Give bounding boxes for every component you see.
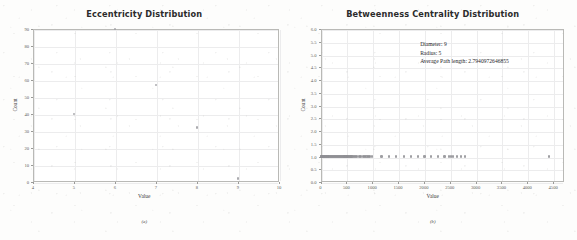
x-tick-mark (501, 182, 502, 184)
y-tick-mark (31, 131, 33, 132)
gridline-horizontal (322, 94, 563, 95)
x-tick-label: 6 (114, 185, 116, 190)
x-tick-label: 0 (319, 185, 321, 190)
y-tick-mark (319, 67, 321, 68)
x-tick-label: 2500 (445, 185, 454, 190)
data-point (417, 155, 419, 157)
y-axis-label-b: Count (300, 93, 306, 117)
x-tick-label: 4 (32, 185, 34, 190)
gridline-horizontal (34, 64, 278, 65)
data-point (548, 155, 550, 157)
y-tick-mark (319, 106, 321, 107)
plot-area-a: 010203040506070809045678910 Count Value (0, 0, 289, 240)
annotation-line: Diameter: 9 (420, 40, 509, 49)
y-tick-mark (319, 29, 321, 30)
y-tick-label: 0.0 (299, 180, 317, 185)
x-tick-mark (115, 182, 116, 184)
x-tick-mark (74, 182, 75, 184)
gridline-horizontal (322, 145, 563, 146)
x-axis-label-b: Value (289, 193, 577, 199)
y-tick-label: 1.0 (299, 154, 317, 159)
gridline-vertical (34, 30, 35, 181)
data-point (437, 155, 439, 157)
figure-row: Eccentricity Distribution 01020304050607… (0, 0, 577, 240)
y-tick-mark (319, 131, 321, 132)
y-tick-mark (31, 80, 33, 81)
subcaption-a: (a) (0, 219, 289, 224)
x-tick-mark (321, 182, 322, 184)
gridline-vertical (116, 30, 117, 181)
x-tick-mark (238, 182, 239, 184)
y-tick-label: 70 (11, 61, 29, 66)
y-tick-label: 6.0 (299, 27, 317, 32)
x-tick-label: 10 (277, 185, 282, 190)
y-tick-label: 5.5 (299, 39, 317, 44)
x-tick-label: 1000 (368, 185, 377, 190)
y-tick-mark (319, 55, 321, 56)
y-tick-mark (319, 93, 321, 94)
x-tick-label: 2000 (419, 185, 428, 190)
gridline-vertical (157, 30, 158, 181)
x-tick-mark (450, 182, 451, 184)
gridline-horizontal (34, 81, 278, 82)
chart-panel-eccentricity: Eccentricity Distribution 01020304050607… (0, 0, 289, 240)
x-tick-label: 7 (155, 185, 157, 190)
axes-box-a (33, 29, 279, 182)
y-axis-label-a: Count (12, 93, 18, 117)
y-tick-mark (31, 114, 33, 115)
gridline-horizontal (34, 132, 278, 133)
data-point (380, 155, 382, 157)
gridline-vertical (280, 30, 281, 181)
x-tick-mark (197, 182, 198, 184)
x-tick-mark (527, 182, 528, 184)
gridline-horizontal (34, 47, 278, 48)
y-tick-label: 30 (11, 129, 29, 134)
y-tick-label: 4.5 (299, 65, 317, 70)
x-tick-mark (279, 182, 280, 184)
y-tick-label: 2.0 (299, 129, 317, 134)
gridline-horizontal (322, 107, 563, 108)
x-tick-label: 9 (237, 185, 239, 190)
y-tick-label: 4.0 (299, 78, 317, 83)
plot-area-b: 0.00.51.01.52.02.53.03.54.04.55.05.56.00… (289, 0, 577, 240)
y-tick-mark (319, 118, 321, 119)
data-point (371, 155, 373, 157)
gridline-horizontal (322, 68, 563, 69)
gridline-horizontal (322, 119, 563, 120)
y-tick-mark (319, 144, 321, 145)
gridline-horizontal (322, 132, 563, 133)
x-tick-label: 1500 (393, 185, 402, 190)
y-tick-mark (319, 169, 321, 170)
x-tick-mark (33, 182, 34, 184)
gridline-horizontal (34, 30, 278, 31)
data-point (423, 155, 425, 157)
data-point (430, 155, 432, 157)
x-tick-mark (424, 182, 425, 184)
y-tick-mark (31, 165, 33, 166)
data-point (443, 155, 445, 157)
y-tick-mark (319, 42, 321, 43)
data-point (388, 155, 390, 157)
gridline-horizontal (34, 149, 278, 150)
annotation-line: Radius: 5 (420, 49, 509, 58)
x-tick-mark (346, 182, 347, 184)
x-tick-label: 8 (196, 185, 198, 190)
gridline-horizontal (322, 170, 563, 171)
y-tick-label: 80 (11, 44, 29, 49)
data-point (410, 155, 412, 157)
x-tick-mark (398, 182, 399, 184)
data-point (395, 155, 397, 157)
y-tick-label: 5.0 (299, 52, 317, 57)
y-tick-mark (31, 63, 33, 64)
subcaption-b: (b) (289, 219, 577, 224)
x-tick-label: 3000 (471, 185, 480, 190)
data-point (452, 155, 454, 157)
gridline-horizontal (34, 98, 278, 99)
y-tick-label: 20 (11, 146, 29, 151)
data-point (456, 155, 458, 157)
gridline-vertical (239, 30, 240, 181)
gridline-horizontal (34, 166, 278, 167)
gridline-horizontal (322, 81, 563, 82)
x-tick-mark (553, 182, 554, 184)
x-tick-label: 3500 (497, 185, 506, 190)
